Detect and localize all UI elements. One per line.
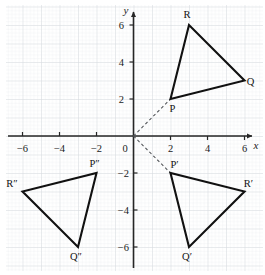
y-tick-label--4: −4 bbox=[118, 205, 130, 216]
y-tick-label-6: 6 bbox=[119, 20, 124, 31]
vertex-label-Q: Q bbox=[247, 76, 255, 87]
vertex-label-R-prime: R′ bbox=[244, 178, 253, 189]
vertex-label-R: R bbox=[183, 9, 190, 20]
grid bbox=[6, 5, 263, 271]
vertex-label-P: P bbox=[170, 103, 176, 114]
vertex-label-Q-dprime: Q″ bbox=[70, 251, 82, 262]
x-axis-label: x bbox=[253, 139, 259, 151]
vertex-label-R-dprime: R″ bbox=[6, 178, 17, 189]
y-tick-label--6: −6 bbox=[118, 242, 129, 253]
coordinate-plot: −6 −4 −2 0 2 4 6 6 4 2 −2 −4 −6 x y bbox=[0, 0, 265, 275]
x-tick-label-6: 6 bbox=[242, 143, 247, 154]
x-tick-label--6: −6 bbox=[17, 143, 28, 154]
y-tick-label-2: 2 bbox=[119, 94, 124, 105]
x-tick-label--2: −2 bbox=[91, 143, 102, 154]
x-tick-label-4: 4 bbox=[205, 143, 211, 154]
origin-label: 0 bbox=[122, 143, 127, 154]
x-tick-label-2: 2 bbox=[168, 143, 173, 154]
vertex-label-Q-prime: Q′ bbox=[182, 251, 192, 262]
vertex-label-P-dprime: P″ bbox=[89, 158, 99, 169]
x-tick-label--4: −4 bbox=[54, 143, 66, 154]
coordinate-plane-figure: −6 −4 −2 0 2 4 6 6 4 2 −2 −4 −6 x y bbox=[0, 0, 265, 275]
y-tick-label--2: −2 bbox=[118, 168, 129, 179]
y-axis-label: y bbox=[123, 4, 129, 16]
vertex-label-P-prime: P′ bbox=[170, 159, 178, 170]
y-tick-label-4: 4 bbox=[119, 57, 125, 68]
